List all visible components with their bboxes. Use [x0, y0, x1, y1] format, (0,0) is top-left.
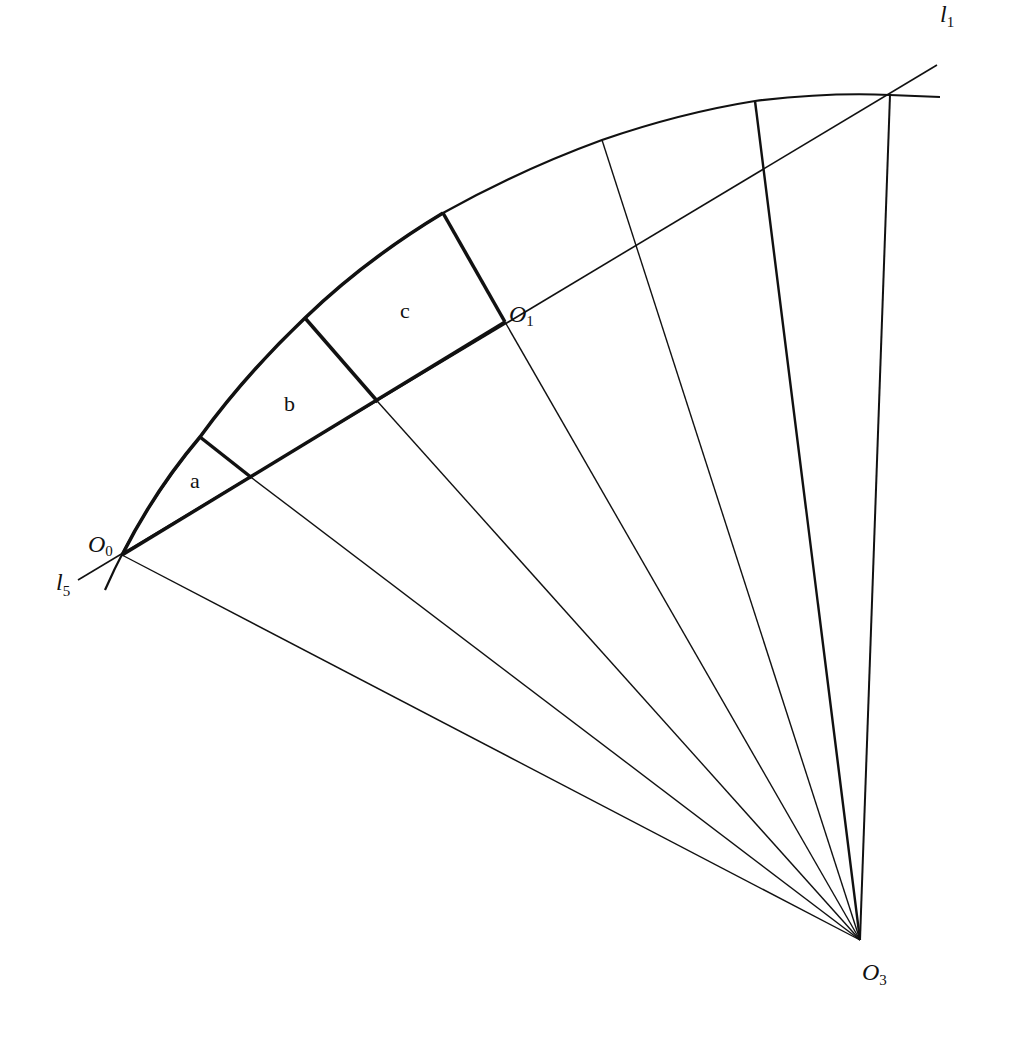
label-l5: l5 — [56, 569, 70, 599]
label-O0: O0 — [88, 531, 113, 559]
outer-arc — [105, 94, 940, 590]
label-O3: O3 — [862, 959, 887, 988]
radial-lines — [122, 95, 890, 940]
region-dividers — [200, 213, 505, 478]
arc-highlight — [122, 213, 443, 555]
region-a-label: a — [190, 468, 200, 493]
label-l1: l1 — [940, 1, 954, 30]
label-O1: O1 — [509, 301, 534, 329]
region-b-label: b — [284, 391, 295, 416]
region-c-label: c — [400, 298, 410, 323]
diagram-canvas: O0 O1 O3 l1 l5 a b c — [0, 0, 1011, 1047]
segment-O0-O1 — [122, 322, 505, 555]
